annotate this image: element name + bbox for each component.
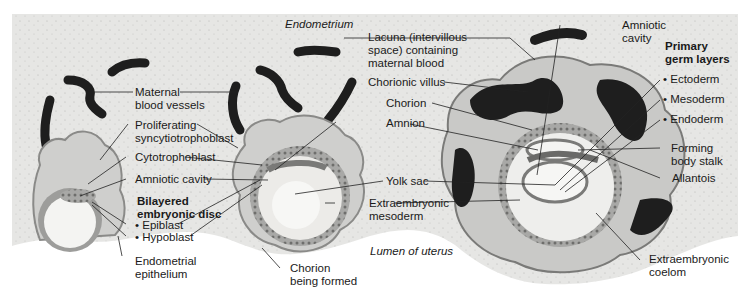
label-bilayered-embryonic-disc: Bilayered embryonic disc bbox=[137, 195, 221, 221]
label-maternal-blood-vessels: Maternal blood vessels bbox=[135, 86, 205, 112]
label-primary-germ-layers: Primary germ layers bbox=[665, 40, 730, 66]
label-chorionic-villus: Chorionic villus bbox=[368, 76, 445, 89]
label-yolk-sac: Yolk sac bbox=[386, 175, 428, 188]
label-chorion: Chorion bbox=[386, 97, 426, 110]
label-mesoderm: • Mesoderm bbox=[663, 93, 725, 106]
label-hypoblast: • Hypoblast bbox=[135, 231, 193, 244]
label-extraembryonic-mesoderm: Extraembryonic mesoderm bbox=[369, 197, 449, 223]
label-cytotrophoblast: Cytotrophoblast bbox=[135, 151, 216, 164]
label-endoderm: • Endoderm bbox=[663, 113, 723, 126]
label-ectoderm: • Ectoderm bbox=[663, 73, 719, 86]
label-lumen-of-uterus: Lumen of uterus bbox=[370, 245, 453, 258]
label-lacuna: Lacuna (intervillous space) containing m… bbox=[368, 31, 467, 70]
label-proliferating-syncytiotrophoblast: Proliferating syncytiotrophoblast bbox=[135, 119, 233, 145]
label-endometrial-epithelium: Endometrial epithelium bbox=[135, 255, 196, 281]
label-allantois: Allantois bbox=[672, 172, 715, 185]
label-amnion: Amnion bbox=[386, 117, 425, 130]
early-implantation-blastocyst bbox=[33, 132, 124, 252]
late-embryo-with-germ-layers bbox=[442, 57, 685, 273]
label-chorion-being-formed: Chorion being formed bbox=[290, 262, 357, 288]
label-forming-body-stalk: Forming body stalk bbox=[671, 142, 723, 168]
label-extraembryonic-coelom: Extraembryonic coelom bbox=[649, 253, 729, 279]
label-endometrium: Endometrium bbox=[285, 18, 353, 31]
label-amniotic-cavity-right: Amniotic cavity bbox=[622, 19, 666, 45]
implantation-diagram: Endometrium Lumen of uterus Maternal blo… bbox=[0, 0, 738, 297]
label-amniotic-cavity-left: Amniotic cavity bbox=[135, 173, 212, 186]
